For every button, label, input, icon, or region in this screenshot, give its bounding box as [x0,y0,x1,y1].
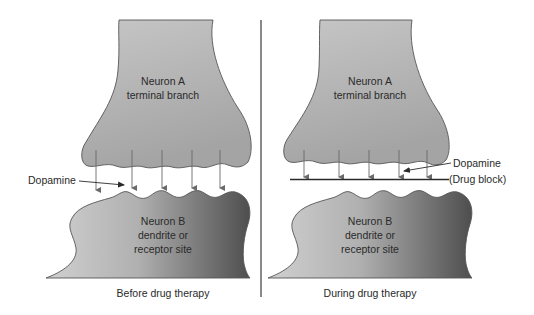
neuron-b-label-1: Neuron B [348,215,392,227]
dopamine-pointer [79,181,124,185]
neuron-a-label-1: Neuron A [141,75,185,87]
neuron-b-label-3: receptor site [341,243,399,255]
dopamine-label: Dopamine [453,157,501,169]
drug-block-label: (Drug block) [449,173,506,185]
neuron-b-label-1: Neuron B [141,215,185,227]
neuron-b-label-2: dendrite or [345,229,396,241]
panel-during: Neuron A terminal branch Neuron B dendri… [268,20,506,299]
caption-during: During drug therapy [324,287,418,299]
caption-before: Before drug therapy [117,287,211,299]
dopamine-label: Dopamine [28,174,76,186]
synapse-diagram: Neuron A terminal branch Neuron B dendri… [0,0,534,315]
dopamine-pointer [404,163,451,171]
neuron-a-label-2: terminal branch [334,89,407,101]
neuron-b-label-2: dendrite or [138,229,189,241]
neuron-a-label-2: terminal branch [127,89,200,101]
neuron-b-label-3: receptor site [134,243,192,255]
neuron-a-label-1: Neuron A [348,75,392,87]
panel-before: Neuron A terminal branch Neuron B dendri… [28,20,251,299]
